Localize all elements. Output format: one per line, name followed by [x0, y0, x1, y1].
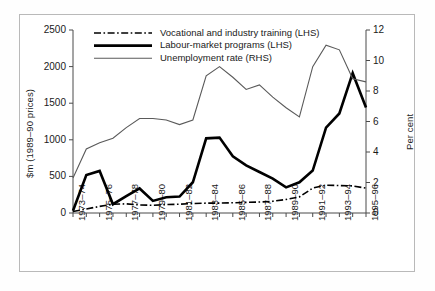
series-line-0 [73, 185, 366, 211]
chart-figure: $m (1989–90 prices) Per cent 05001000150… [0, 0, 435, 291]
chart-plot-area [0, 0, 435, 291]
series-line-2 [73, 45, 366, 178]
series-line-1 [73, 73, 366, 211]
